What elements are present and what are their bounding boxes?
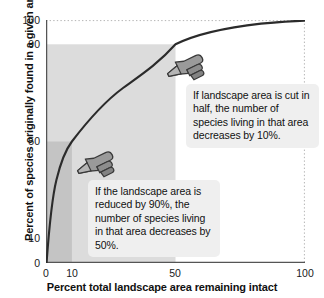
x-tick-50: 50 bbox=[155, 267, 195, 279]
y-tick-100: 100 bbox=[10, 15, 40, 25]
pointing-hand-icon-upper bbox=[164, 47, 208, 89]
species-area-chart: Percent of species originally found in a… bbox=[0, 0, 324, 298]
x-tick-labels: 0 10 50 100 bbox=[0, 267, 324, 283]
y-tick-90: 90 bbox=[10, 39, 40, 49]
y-tick-labels: 100 90 50 10 0 bbox=[8, 0, 40, 298]
callout-half-area: If landscape area is cut in half, the nu… bbox=[186, 84, 319, 148]
x-tick-10: 10 bbox=[52, 267, 92, 279]
x-tick-100: 100 bbox=[285, 267, 324, 279]
callout-reduced-area: If the landscape area is reduced by 90%,… bbox=[88, 180, 220, 257]
y-tick-10: 10 bbox=[10, 233, 40, 243]
reduced-90-region bbox=[46, 142, 72, 264]
y-tick-50: 50 bbox=[10, 136, 40, 146]
